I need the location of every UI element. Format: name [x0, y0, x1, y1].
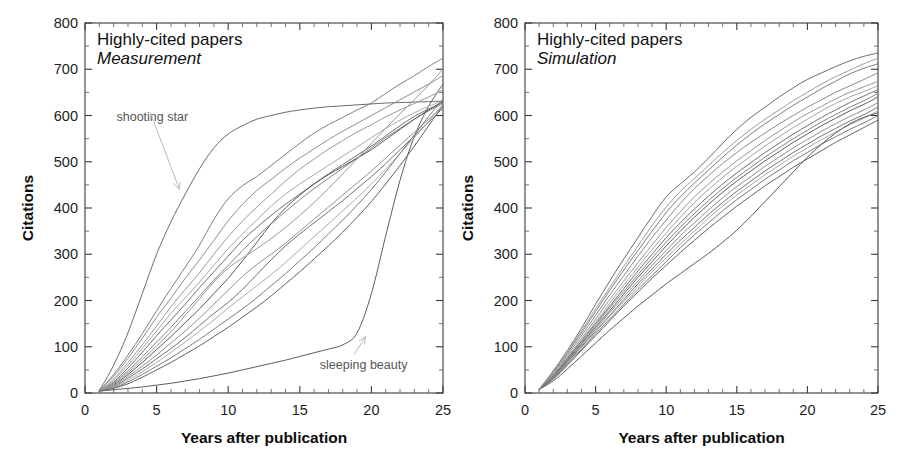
measurement-plot-svg: 01002003004005006007008000510152025Years… — [0, 0, 449, 469]
panel-subtitle: Measurement — [97, 49, 202, 68]
citation-curve — [539, 111, 878, 389]
y-tick-label: 300 — [54, 246, 78, 262]
y-tick-label: 0 — [70, 385, 78, 401]
panel-subtitle: Simulation — [537, 49, 616, 68]
citation-curve — [539, 107, 878, 389]
x-tick-label: 15 — [729, 402, 745, 418]
citation-curve — [99, 101, 443, 391]
citation-curve — [539, 120, 878, 389]
simulation-plot-svg: 01002003004005006007008000510152025Years… — [449, 0, 898, 469]
citation-curve — [539, 86, 878, 389]
y-tick-label: 400 — [494, 200, 518, 216]
x-tick-label: 15 — [292, 402, 308, 418]
citation-curve — [539, 103, 878, 390]
x-tick-label: 0 — [521, 402, 529, 418]
plot-frame — [85, 23, 443, 393]
chart-panel-simulation: 01002003004005006007008000510152025Years… — [449, 0, 898, 469]
y-tick-label: 100 — [54, 339, 78, 355]
y-tick-label: 200 — [54, 293, 78, 309]
citation-curve — [539, 113, 878, 390]
citation-curve — [539, 93, 878, 389]
x-tick-label: 10 — [658, 402, 674, 418]
x-tick-label: 5 — [153, 402, 161, 418]
x-tick-label: 20 — [363, 402, 379, 418]
y-tick-label: 600 — [494, 108, 518, 124]
y-tick-label: 800 — [494, 15, 518, 31]
annotation-leader-line — [151, 113, 180, 189]
series-group — [539, 53, 878, 389]
x-axis-title: Years after publication — [618, 429, 784, 446]
y-tick-label: 500 — [494, 154, 518, 170]
x-tick-label: 20 — [799, 402, 815, 418]
citation-curve — [99, 103, 443, 390]
y-tick-label: 200 — [494, 293, 518, 309]
curve-annotation-label: sleeping beauty — [320, 358, 408, 372]
x-axis: 0510152025 — [521, 23, 886, 418]
x-tick-label: 0 — [81, 402, 89, 418]
y-axis-title: Citations — [459, 175, 476, 241]
y-axis-title: Citations — [19, 175, 36, 241]
citation-curve — [539, 90, 878, 390]
y-tick-label: 600 — [54, 108, 78, 124]
y-axis: 0100200300400500600700800 — [54, 15, 443, 401]
y-tick-label: 300 — [494, 246, 518, 262]
annotations: shooting starsleeping beauty — [117, 110, 409, 372]
annotation-leader-line — [354, 337, 366, 355]
y-tick-label: 700 — [54, 61, 78, 77]
y-tick-label: 0 — [510, 385, 518, 401]
panel-title: Highly-cited papers — [537, 30, 683, 49]
citation-curve — [99, 84, 443, 391]
panel-title: Highly-cited papers — [97, 30, 243, 49]
x-tick-label: 25 — [870, 402, 886, 418]
y-tick-label: 700 — [494, 61, 518, 77]
y-tick-label: 800 — [54, 15, 78, 31]
y-tick-label: 500 — [54, 154, 78, 170]
chart-panel-measurement: 01002003004005006007008000510152025Years… — [0, 0, 449, 469]
citation-curve — [539, 81, 878, 389]
y-tick-label: 100 — [494, 339, 518, 355]
citation-curve — [99, 99, 443, 391]
x-tick-label: 5 — [592, 402, 600, 418]
x-axis-title: Years after publication — [181, 429, 347, 446]
x-tick-label: 10 — [220, 402, 236, 418]
annotation-arrowhead — [359, 337, 366, 345]
y-axis: 0100200300400500600700800 — [494, 15, 878, 401]
citation-curve — [99, 101, 443, 391]
y-tick-label: 400 — [54, 200, 78, 216]
series-group — [99, 58, 443, 391]
figure-container: 01002003004005006007008000510152025Years… — [0, 0, 898, 469]
